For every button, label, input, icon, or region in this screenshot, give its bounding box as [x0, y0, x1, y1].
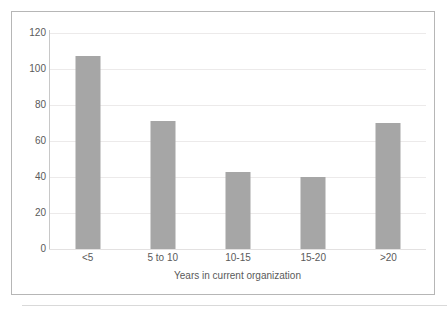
bar[interactable] — [301, 177, 326, 249]
y-axis-tick-label: 0 — [16, 244, 46, 254]
y-axis-tick-label: 120 — [16, 28, 46, 38]
x-axis-category-label: 15-20 — [300, 252, 326, 264]
footer-divider — [22, 305, 447, 306]
x-axis-category-label: <5 — [82, 252, 93, 264]
plot-area: 020406080100120 <55 to 1010-1515-20>20 Y… — [12, 12, 436, 296]
y-axis-tick-label: 20 — [16, 208, 46, 218]
bar[interactable] — [225, 172, 250, 249]
bar-slot: 5 to 10 — [125, 12, 200, 296]
y-axis-tick-label: 40 — [16, 172, 46, 182]
x-axis-category-label: 10-15 — [225, 252, 251, 264]
bar-chart-figure: 020406080100120 <55 to 1010-1515-20>20 Y… — [11, 11, 435, 295]
y-axis-tick-labels: 020406080100120 — [12, 12, 46, 296]
bar[interactable] — [376, 123, 401, 249]
bar-slot: 15-20 — [276, 12, 351, 296]
y-axis-tick-label: 60 — [16, 136, 46, 146]
x-axis-category-label: >20 — [380, 252, 397, 264]
bar-slot: >20 — [351, 12, 426, 296]
bar[interactable] — [75, 56, 100, 249]
bar-slot: 10-15 — [200, 12, 275, 296]
y-axis-tick-label: 100 — [16, 64, 46, 74]
y-axis-tick-label: 80 — [16, 100, 46, 110]
bar-slot: <5 — [50, 12, 125, 296]
bar[interactable] — [150, 121, 175, 249]
x-axis-category-label: 5 to 10 — [147, 252, 178, 264]
bars-group: <55 to 1010-1515-20>20 — [50, 12, 426, 296]
x-axis-title: Years in current organization — [49, 270, 426, 281]
